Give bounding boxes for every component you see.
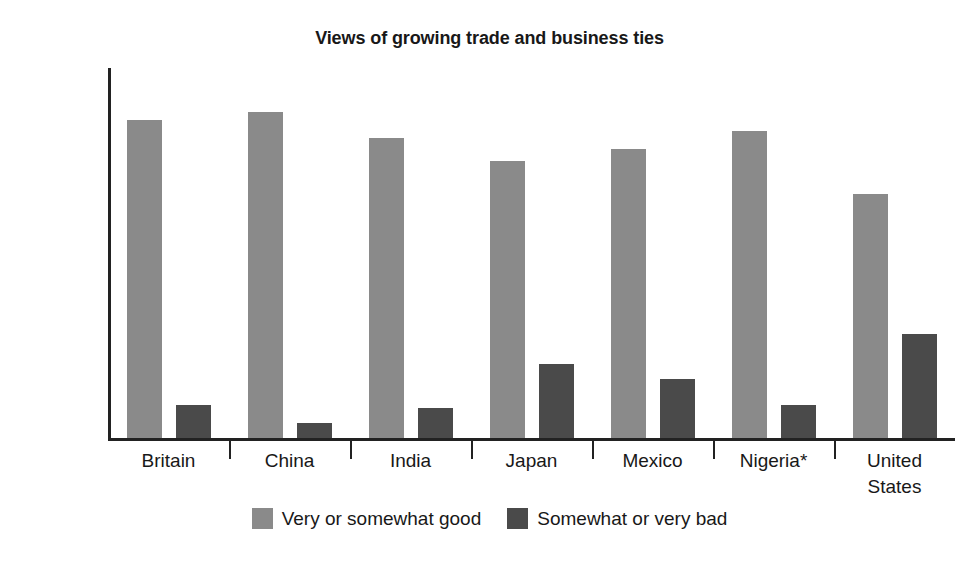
bar xyxy=(732,131,767,438)
x-axis-label: Mexico xyxy=(592,448,713,474)
bar xyxy=(902,334,937,438)
bar xyxy=(176,405,211,438)
x-axis-label: Japan xyxy=(471,448,592,474)
x-axis-line xyxy=(108,438,955,441)
legend-swatch xyxy=(507,508,528,529)
bar xyxy=(490,161,525,439)
legend-item: Somewhat or very bad xyxy=(507,508,727,529)
legend-label: Somewhat or very bad xyxy=(537,508,727,529)
bar xyxy=(127,120,162,438)
plot-area xyxy=(108,60,955,438)
bar xyxy=(781,405,816,438)
bar xyxy=(369,138,404,438)
bar xyxy=(853,194,888,438)
x-axis-label: Nigeria* xyxy=(713,448,834,474)
bar xyxy=(660,379,695,438)
x-axis-label: India xyxy=(350,448,471,474)
chart-title: Views of growing trade and business ties xyxy=(0,28,979,49)
x-axis-label: United States xyxy=(834,448,955,500)
x-axis-label: China xyxy=(229,448,350,474)
chart-legend: Very or somewhat goodSomewhat or very ba… xyxy=(0,508,979,529)
chart-figure: Views of growing trade and business ties… xyxy=(0,0,979,573)
legend-label: Very or somewhat good xyxy=(282,508,482,529)
bar xyxy=(248,112,283,438)
legend-item: Very or somewhat good xyxy=(252,508,482,529)
bar xyxy=(297,423,332,438)
x-axis-label: Britain xyxy=(108,448,229,474)
x-axis-category-labels: BritainChinaIndiaJapanMexicoNigeria*Unit… xyxy=(108,448,955,508)
legend-swatch xyxy=(252,508,273,529)
bar xyxy=(611,149,646,438)
bar xyxy=(418,408,453,438)
bar xyxy=(539,364,574,438)
y-axis-line xyxy=(108,68,111,438)
